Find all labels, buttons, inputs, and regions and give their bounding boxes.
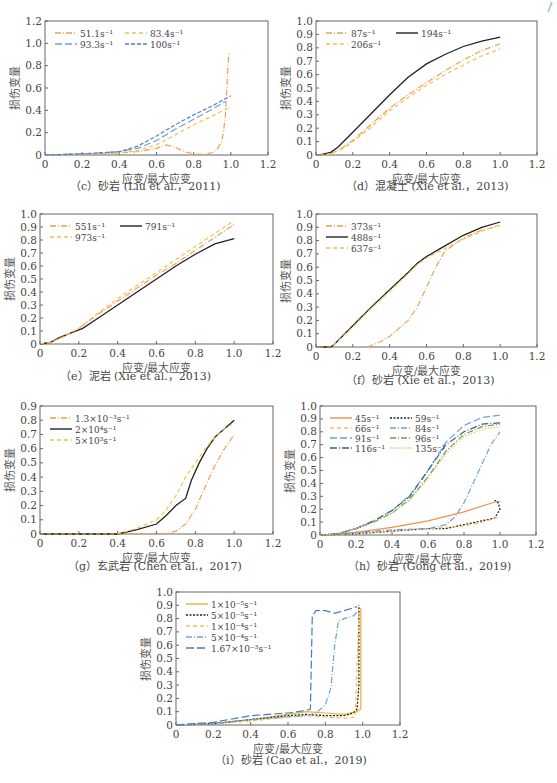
y-tick-label: 0 bbox=[30, 528, 37, 540]
y-tick-label: 0.9 bbox=[296, 28, 313, 40]
y-tick-label: 0.9 bbox=[296, 221, 313, 233]
legend-label: 84s⁻¹ bbox=[415, 424, 439, 434]
y-tick-label: 0.2 bbox=[300, 503, 317, 515]
series-line bbox=[40, 224, 234, 344]
y-tick-label: 0.1 bbox=[20, 325, 37, 337]
y-tick-label: 0.8 bbox=[20, 234, 37, 246]
x-tick-label: 1.0 bbox=[226, 347, 243, 359]
series-line bbox=[320, 225, 501, 347]
series-line bbox=[368, 226, 501, 347]
y-axis-label: 损伤变量 bbox=[139, 637, 153, 681]
series-line bbox=[320, 427, 500, 535]
x-tick-label: 1.2 bbox=[392, 728, 409, 740]
legend-label: 116s⁻¹ bbox=[355, 444, 385, 454]
y-tick-label: 0.3 bbox=[296, 108, 313, 120]
x-tick-label: 1.2 bbox=[529, 158, 546, 170]
y-tick-label: 0.6 bbox=[156, 639, 173, 651]
x-tick-label: 0.4 bbox=[381, 158, 398, 170]
y-tick-label: 0.7 bbox=[300, 438, 317, 450]
caption-g: （g）玄武岩 (Chen et al.，2017) bbox=[68, 557, 242, 573]
caption-i: （i）砂岩 (Cao et al.，2019) bbox=[215, 751, 367, 767]
caption-f: （f）砂岩 (Xie et al.，2013) bbox=[346, 371, 495, 387]
y-tick-label: 0.9 bbox=[20, 400, 37, 412]
y-tick-label: 0.6 bbox=[300, 451, 317, 463]
y-tick-label: 1.0 bbox=[156, 586, 173, 598]
series-line bbox=[45, 52, 229, 155]
x-tick-label: 0.4 bbox=[384, 538, 401, 550]
plot-frame bbox=[316, 21, 537, 155]
legend-label: 51.1s⁻¹ bbox=[80, 29, 113, 39]
x-tick-label: 0 bbox=[37, 347, 44, 359]
y-tick-label: 0.8 bbox=[296, 234, 313, 246]
y-tick-label: 0.6 bbox=[25, 82, 42, 94]
caption-h: （h）砂岩 (Gong et al.，2019) bbox=[348, 557, 511, 573]
y-axis-label: 损伤变量 bbox=[279, 259, 293, 303]
y-tick-label: 0.4 bbox=[300, 477, 317, 489]
y-tick-label: 0.6 bbox=[20, 260, 37, 272]
x-tick-label: 1.2 bbox=[265, 537, 282, 549]
y-axis-label: 损伤变量 bbox=[283, 449, 297, 493]
y-tick-label: 0.2 bbox=[296, 314, 313, 326]
legend-label: 637s⁻¹ bbox=[351, 244, 381, 254]
x-tick-label: 0.8 bbox=[187, 347, 204, 359]
y-tick-label: 0.2 bbox=[20, 312, 37, 324]
x-tick-label: 0.8 bbox=[455, 350, 472, 362]
x-tick-label: 0 bbox=[42, 158, 49, 170]
series-line bbox=[320, 517, 500, 535]
y-tick-label: 0.4 bbox=[20, 471, 37, 483]
y-tick-label: 0.1 bbox=[296, 135, 313, 147]
series-line bbox=[320, 423, 500, 535]
x-tick-label: 1.0 bbox=[226, 537, 243, 549]
y-tick-label: 0.4 bbox=[296, 95, 313, 107]
chart-svg: 00.20.40.60.81.01.200.10.20.30.40.50.60.… bbox=[136, 584, 420, 767]
legend-label: 1.3×10⁻³s⁻¹ bbox=[75, 414, 130, 424]
y-tick-label: 0.6 bbox=[296, 261, 313, 273]
x-tick-label: 0 bbox=[313, 350, 320, 362]
y-tick-label: 0.7 bbox=[20, 247, 37, 259]
y-tick-label: 0.5 bbox=[20, 456, 37, 468]
x-tick-label: 0.6 bbox=[418, 350, 435, 362]
legend-label: 5×10⁻⁴s⁻¹ bbox=[211, 633, 257, 643]
y-tick-label: 0 bbox=[306, 149, 313, 161]
legend-label: 206s⁻¹ bbox=[351, 40, 381, 50]
x-tick-label: 0 bbox=[317, 538, 324, 550]
x-tick-label: 0.4 bbox=[242, 728, 259, 740]
y-tick-label: 0.7 bbox=[20, 428, 37, 440]
x-tick-label: 0 bbox=[313, 158, 320, 170]
x-tick-label: 0.6 bbox=[420, 538, 437, 550]
x-tick-label: 0.8 bbox=[456, 538, 473, 550]
chart-svg: 00.20.40.60.81.01.200.10.20.30.40.50.60.… bbox=[0, 398, 293, 576]
chart-svg: 00.20.40.60.81.01.200.10.20.30.40.50.60.… bbox=[276, 13, 557, 197]
y-tick-label: 0.2 bbox=[156, 692, 173, 704]
y-tick-label: 0 bbox=[306, 341, 313, 353]
legend-label: 96s⁻¹ bbox=[415, 434, 439, 444]
x-tick-label: 0.8 bbox=[187, 537, 204, 549]
series-line bbox=[320, 424, 500, 535]
y-tick-label: 0.5 bbox=[300, 464, 317, 476]
legend-label: 91s⁻¹ bbox=[355, 434, 379, 444]
series-line bbox=[176, 612, 357, 725]
y-tick-label: 0 bbox=[310, 529, 317, 541]
series-line bbox=[40, 239, 234, 344]
legend-label: 373s⁻¹ bbox=[351, 222, 381, 232]
y-tick-label: 1.0 bbox=[20, 208, 37, 220]
x-tick-label: 0.6 bbox=[280, 728, 297, 740]
legend-label: 551s⁻¹ bbox=[75, 222, 105, 232]
y-tick-label: 0.3 bbox=[300, 490, 317, 502]
y-tick-label: 0 bbox=[166, 719, 173, 731]
y-tick-label: 0.3 bbox=[20, 485, 37, 497]
plot-frame bbox=[316, 214, 537, 347]
series-line bbox=[320, 37, 501, 155]
y-tick-label: 0.2 bbox=[296, 122, 313, 134]
series-line bbox=[176, 612, 359, 725]
legend-label: 100s⁻¹ bbox=[150, 40, 180, 50]
caption-d: （d）混凝土 (Xie et al.，2013) bbox=[346, 177, 508, 193]
y-tick-label: 1.0 bbox=[296, 15, 313, 27]
y-tick-label: 0.4 bbox=[25, 104, 42, 116]
series-line bbox=[320, 502, 500, 536]
legend-label: 66s⁻¹ bbox=[355, 424, 379, 434]
y-tick-label: 0.6 bbox=[20, 442, 37, 454]
x-tick-label: 0.2 bbox=[74, 158, 91, 170]
legend-label: 488s⁻¹ bbox=[351, 233, 381, 243]
plot-frame bbox=[176, 592, 400, 725]
